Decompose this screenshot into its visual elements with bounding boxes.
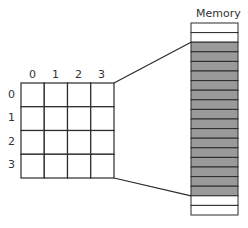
row-label-0: 0 — [8, 89, 15, 100]
memory-cell — [191, 148, 238, 158]
grid-cell — [68, 107, 91, 131]
memory-cell — [191, 100, 238, 110]
memory-cell — [191, 81, 238, 91]
memory-cell — [191, 71, 238, 81]
memory-cell — [191, 196, 238, 206]
memory-cell — [191, 23, 238, 33]
grid-cell — [21, 131, 44, 155]
grid-cell — [44, 107, 67, 131]
col-label-0: 0 — [29, 69, 36, 80]
memory-cell — [191, 177, 238, 187]
col-label-3: 3 — [98, 69, 105, 80]
2d-array-grid — [21, 83, 114, 178]
memory-cell — [191, 138, 238, 148]
memory-cell — [191, 90, 238, 100]
col-label-1: 1 — [52, 69, 59, 80]
grid-cell — [21, 107, 44, 131]
mapping-lines — [114, 42, 191, 196]
memory-cell — [191, 33, 238, 43]
grid-cell — [91, 131, 114, 155]
grid-cell — [68, 131, 91, 155]
grid-cell — [91, 154, 114, 178]
grid-cell — [68, 154, 91, 178]
memory-cell — [191, 186, 238, 196]
memory-cell — [191, 52, 238, 62]
memory-cell — [191, 119, 238, 129]
row-label-3: 3 — [8, 159, 15, 170]
row-label-1: 1 — [8, 112, 15, 123]
memory-cell — [191, 129, 238, 139]
memory-cell — [191, 109, 238, 119]
grid-cell — [44, 154, 67, 178]
col-label-2: 2 — [75, 69, 82, 80]
memory-title: Memory — [196, 8, 241, 19]
grid-cell — [91, 107, 114, 131]
memory-cell — [191, 42, 238, 52]
memory-cell — [191, 157, 238, 167]
grid-cell — [91, 83, 114, 107]
grid-cell — [21, 83, 44, 107]
grid-cell — [44, 83, 67, 107]
memory-column — [191, 23, 238, 215]
row-label-2: 2 — [8, 136, 15, 147]
grid-cell — [21, 154, 44, 178]
memory-cell — [191, 167, 238, 177]
memory-cell — [191, 205, 238, 215]
array-memory-diagram — [0, 0, 248, 228]
grid-cell — [68, 83, 91, 107]
memory-cell — [191, 61, 238, 71]
grid-cell — [44, 131, 67, 155]
